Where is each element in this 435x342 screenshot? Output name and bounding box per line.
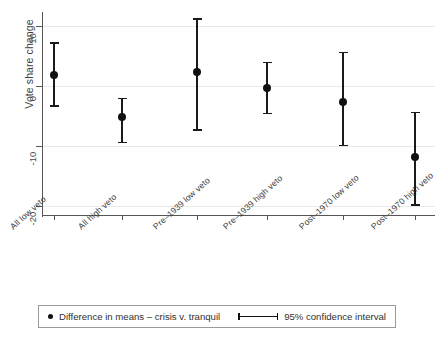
confidence-interval-cap [118, 142, 127, 143]
x-tick-mark [415, 215, 416, 220]
confidence-interval-cap [263, 62, 272, 63]
gridline [43, 26, 435, 27]
x-tick-label: Pre–1939 low veto [151, 175, 212, 231]
confidence-interval-cap [193, 18, 202, 19]
x-tick-label: All high veto [76, 192, 118, 232]
data-point-marker [50, 71, 58, 79]
x-tick-mark [267, 215, 268, 220]
confidence-interval-cap [50, 42, 59, 43]
gridline [43, 86, 435, 87]
legend-label-means: Difference in means – crisis v. tranquil [59, 311, 220, 322]
confidence-interval-cap [193, 129, 202, 130]
data-point-marker [263, 84, 271, 92]
legend-label-ci: 95% confidence interval [284, 311, 386, 322]
data-point-marker [411, 153, 419, 161]
confidence-interval-cap [263, 113, 272, 114]
data-point-marker [193, 68, 201, 76]
chart-figure: Vote share change 100-10-20 All low veto… [0, 0, 435, 342]
confidence-interval-cap [339, 52, 348, 53]
confidence-interval-cap [411, 112, 420, 113]
confidence-interval-cap [411, 204, 420, 205]
y-tick-label: 10 [27, 26, 38, 52]
legend-errorbar-icon [238, 313, 278, 320]
confidence-interval-cap [50, 105, 59, 106]
y-axis-title: Vote share change [23, 0, 35, 139]
x-tick-mark [122, 215, 123, 220]
chart-legend: Difference in means – crisis v. tranquil… [38, 305, 396, 328]
y-tick-label: -10 [27, 146, 38, 172]
legend-dot-icon [48, 314, 53, 319]
x-tick-mark [197, 215, 198, 220]
x-tick-label: Post–1970 high veto [369, 170, 435, 231]
gridline [43, 146, 435, 147]
data-point-marker [339, 98, 347, 106]
confidence-interval-cap [339, 145, 348, 146]
x-tick-label: Pre–1939 high veto [221, 173, 284, 232]
x-tick-label: Post–1970 low veto [297, 173, 361, 232]
y-tick-label: 0 [27, 86, 38, 112]
x-tick-mark [54, 215, 55, 220]
legend-entry-ci: 95% confidence interval [238, 311, 386, 322]
confidence-interval-cap [118, 98, 127, 99]
x-tick-mark [343, 215, 344, 220]
y-axis-line [42, 12, 43, 217]
data-point-marker [118, 113, 126, 121]
legend-entry-means: Difference in means – crisis v. tranquil [48, 311, 220, 322]
